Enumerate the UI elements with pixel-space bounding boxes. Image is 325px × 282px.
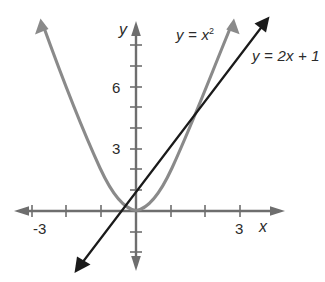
y-axis-up-arrow-icon xyxy=(131,21,141,36)
graph-figure: y x -3 3 3 6 y = x2 y = 2x + 1 xyxy=(0,0,325,282)
parabola-exponent: 2 xyxy=(209,26,214,36)
line-upper-arrow-icon xyxy=(255,17,270,33)
x-tick-label-3: 3 xyxy=(235,221,243,236)
parabola-curve xyxy=(35,19,240,211)
x-axis-label: x xyxy=(259,219,267,235)
coordinate-plane-svg xyxy=(0,0,325,282)
parabola-equation-label: y = x2 xyxy=(176,27,214,42)
x-axis-left-arrow-icon xyxy=(14,206,29,216)
x-tick-label-neg3: -3 xyxy=(33,221,46,236)
x-axis xyxy=(14,206,285,216)
y-axis-label: y xyxy=(119,22,127,38)
y-axis xyxy=(131,21,141,271)
x-axis-right-arrow-icon xyxy=(270,206,285,216)
parabola-equation-text: y = x xyxy=(176,26,209,43)
y-tick-label-3: 3 xyxy=(112,141,120,156)
y-axis-down-arrow-icon xyxy=(131,256,141,271)
line-lower-arrow-icon xyxy=(75,257,91,274)
line-equation-label: y = 2x + 1 xyxy=(252,48,320,63)
y-tick-label-6: 6 xyxy=(112,80,120,95)
